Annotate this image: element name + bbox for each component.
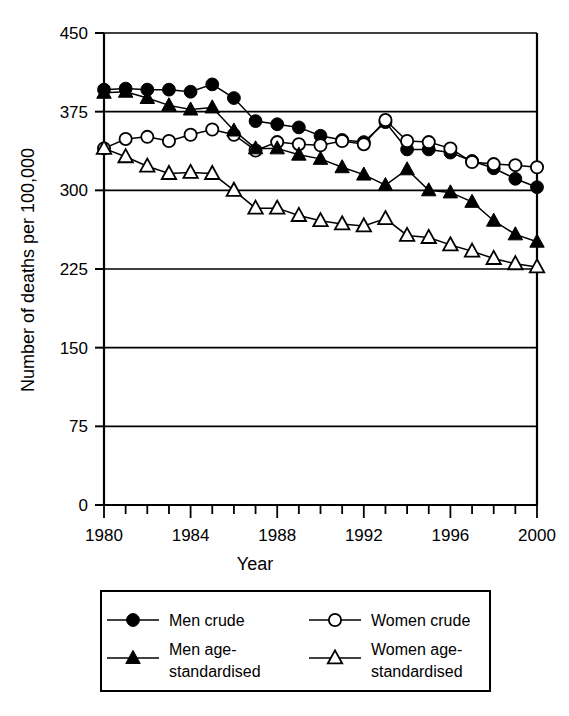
y-tick-label: 450 [60,24,88,43]
data-point-marker [423,136,435,148]
data-point-marker [336,135,348,147]
legend-label: Women crude [371,612,470,629]
data-point-marker [466,156,478,168]
data-point-marker [379,114,391,126]
legend-marker-filled-circle [127,614,140,627]
x-axis-title: Year [237,554,273,574]
data-point-marker [531,181,544,194]
data-point-marker [488,158,500,170]
data-point-marker [249,115,262,128]
data-point-marker [444,142,456,154]
data-point-marker [509,159,521,171]
data-point-marker [141,131,153,143]
data-point-marker [206,78,219,91]
data-point-marker [314,139,326,151]
legend-marker-open-circle [329,614,341,626]
legend-label: Men crude [169,612,245,629]
y-tick-label: 375 [60,103,88,122]
data-point-marker [163,83,176,96]
legend-label-line1: Women age- [371,641,462,658]
x-tick-label: 1992 [345,526,383,545]
legend-label-line2: standardised [169,663,261,680]
legend: Men crudeWomen crudeMen age-standardised… [101,591,490,691]
data-point-marker [185,129,197,141]
data-point-marker [401,135,413,147]
line-chart: 075150225300375450 198019841988199219962… [0,0,569,716]
data-point-marker [206,123,218,135]
legend-label-line2: standardised [371,663,463,680]
legend-label-line1: Men age- [169,641,237,658]
data-point-marker [531,161,543,173]
x-tick-label: 1984 [172,526,210,545]
y-tick-label: 300 [60,181,88,200]
y-tick-label: 0 [79,496,88,515]
data-point-marker [271,118,284,131]
data-point-marker [184,85,197,98]
x-tick-label: 1988 [258,526,296,545]
y-axis-title: Number of deaths per 100,000 [18,148,38,392]
data-point-marker [120,133,132,145]
y-tick-label: 150 [60,339,88,358]
data-point-marker [509,172,522,185]
x-tick-label: 1980 [85,526,123,545]
data-point-marker [358,138,370,150]
x-tick-label: 2000 [518,526,556,545]
data-point-marker [228,92,241,105]
y-tick-label: 225 [60,260,88,279]
data-point-marker [292,121,305,134]
chart-page: 075150225300375450 198019841988199219962… [0,0,569,716]
x-tick-label: 1996 [431,526,469,545]
data-point-marker [163,135,175,147]
y-tick-label: 75 [69,417,88,436]
